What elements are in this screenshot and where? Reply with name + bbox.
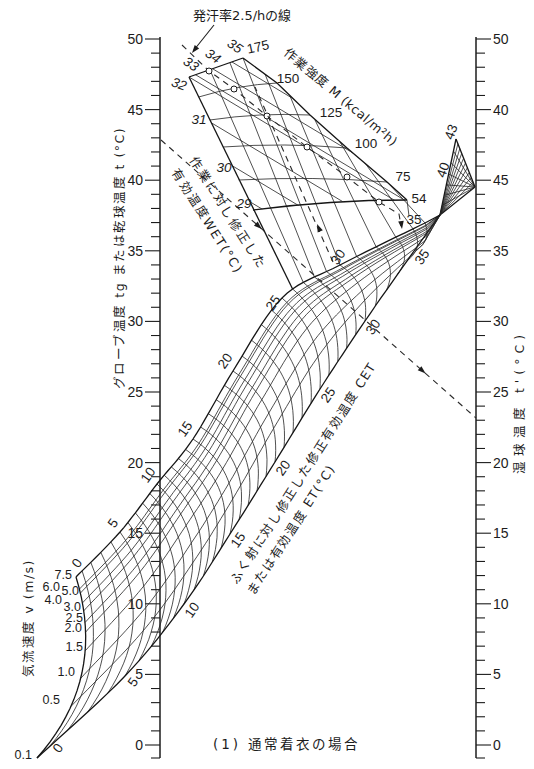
wet-label: 30 <box>216 160 232 175</box>
sweat-rate-marker <box>206 68 212 74</box>
work-intensity-label: 100 <box>355 136 378 151</box>
air-velocity-label: 1.0 <box>58 665 75 679</box>
air-velocity-label: 3.0 <box>64 600 81 614</box>
right-tick-label: 40 <box>493 102 509 118</box>
work-intensity-line <box>239 178 387 182</box>
left-tick-label: 20 <box>127 455 143 471</box>
air-velocity-label: 5.0 <box>62 584 79 598</box>
air-velocity-label: 6.0 <box>43 580 60 594</box>
air-velocity-label: 0.1 <box>15 748 32 762</box>
right-tick-label: 25 <box>493 384 509 400</box>
right-tick-label: 50 <box>493 31 509 47</box>
work-intensity-label: 75 <box>395 169 410 184</box>
wet-line <box>229 60 473 206</box>
sweat-rate-marker <box>304 144 310 150</box>
sweat-line-arrow-icon <box>398 221 404 229</box>
left-tick-label: 30 <box>127 313 143 329</box>
et-upper-label: 5 <box>105 516 122 531</box>
work-intensity-title: 作業強度 M (kcal/m²h) <box>281 45 401 149</box>
wet-line <box>228 163 472 309</box>
et-line <box>282 298 320 389</box>
et-line <box>327 272 357 335</box>
right-tick-label: 0 <box>493 737 501 753</box>
et-line <box>208 414 250 506</box>
work-intensity-label: 150 <box>277 71 300 86</box>
right-tick-label: 20 <box>493 455 509 471</box>
left-tick-label: 25 <box>127 384 143 400</box>
et-line <box>150 494 184 619</box>
left-tick-label: 10 <box>127 596 143 612</box>
right-tick-label: 5 <box>493 666 501 682</box>
high-et-label: 43 <box>441 122 460 141</box>
sweat-rate-line-label: 発汗率2.5/hの線 <box>193 8 291 23</box>
wet-label: 31 <box>191 112 206 127</box>
leader-arrow-icon <box>192 45 199 53</box>
left-tick-label: 40 <box>127 172 143 188</box>
wet-label: 35 <box>225 36 246 57</box>
figure-caption: (1) 通常着衣の場合 <box>213 736 360 752</box>
et-extension-line <box>265 74 340 265</box>
work-intensity-label: 125 <box>320 105 343 120</box>
work-intensity-label: 175 <box>245 37 270 56</box>
et-upper-label: 20 <box>215 351 236 372</box>
right-axis-title: 湿球温度 t'(°C) <box>512 330 527 474</box>
sweat-rate-marker <box>231 86 237 92</box>
left-tick-label: 35 <box>127 243 143 259</box>
right-tick-label: 10 <box>493 596 509 612</box>
air-velocity-label: 4.0 <box>45 593 62 607</box>
right-tick-label: 30 <box>493 313 509 329</box>
right-tick-label: 35 <box>493 243 509 259</box>
left-tick-label: 0 <box>135 737 143 753</box>
upward-arrow-icon <box>317 224 323 232</box>
et-line <box>171 467 209 576</box>
et-line <box>178 459 217 563</box>
et-upper-label: 30 <box>328 247 349 268</box>
sweat-rate-marker <box>376 199 382 205</box>
left-tick-label: 45 <box>127 102 143 118</box>
et-upper-label: 15 <box>175 419 196 440</box>
et-lower-label: 0 <box>50 741 67 756</box>
air-velocity-title: 気流速度 v (m/s) <box>21 559 36 677</box>
et-scale-title-line1: ふく射に対し修正した修正有効温度 CET <box>227 359 379 587</box>
air-velocity-label: 1.5 <box>66 640 83 654</box>
wet-label: 29 <box>235 196 252 211</box>
et-line <box>314 277 347 348</box>
air-velocity-label: 0.5 <box>43 693 60 707</box>
sweat-line-end-label: 35 <box>406 212 421 227</box>
wet-label: 32 <box>169 74 189 93</box>
et-air-velocity-band <box>37 215 440 758</box>
sweat-rate-marker <box>344 174 350 180</box>
et-line <box>303 282 338 361</box>
effective-temperature-nomogram: 5045403530252015105050404535302520151050… <box>0 0 534 769</box>
wet-line <box>193 73 437 219</box>
work-intensity-label: 54 <box>411 191 427 206</box>
left-tick-label: 50 <box>127 31 143 47</box>
wet-label: 34 <box>203 46 224 67</box>
wet-label: 33 <box>181 54 202 75</box>
right-tick-label: 45 <box>493 172 509 188</box>
left-axis-title: グローブ温度 tg または乾球温度 t (°C) <box>112 127 127 389</box>
air-velocity-label: 7.5 <box>55 568 72 582</box>
et-line <box>201 427 242 520</box>
et-line <box>128 523 156 661</box>
right-tick-label: 15 <box>493 525 509 541</box>
